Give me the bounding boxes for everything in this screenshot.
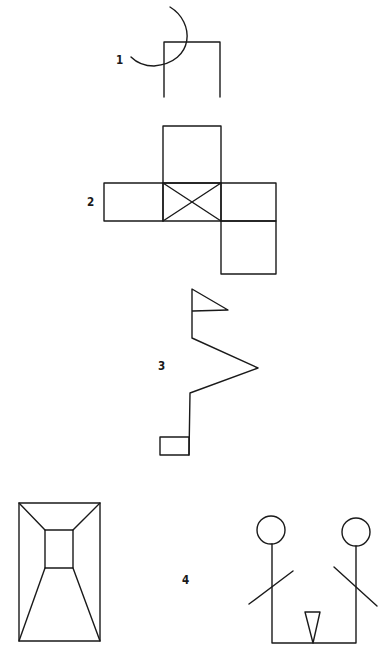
figures-canvas <box>0 0 389 653</box>
figure-4-perspective-box <box>19 503 100 641</box>
figure-3-flag-zigzag <box>160 289 258 455</box>
figure-2-cross-net <box>104 126 276 274</box>
figure-1-arc-and-box <box>131 7 220 97</box>
figure-4-stick-figures <box>249 516 377 643</box>
